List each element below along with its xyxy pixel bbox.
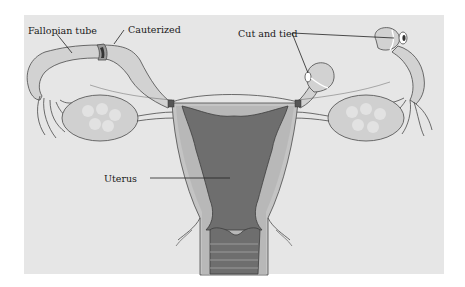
label-uterus: Uterus [104,174,137,184]
label-cauterized: Cauterized [128,25,181,35]
reproductive-anatomy-illustration [0,0,465,287]
label-fallopian-tube: Fallopian tube [28,26,97,36]
label-cut-and-tied: Cut and tied [238,29,298,39]
